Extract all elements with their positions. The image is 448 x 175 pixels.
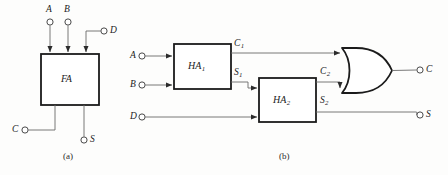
label-c2-name: C <box>320 66 326 76</box>
label-b-input-a: A <box>130 51 136 61</box>
wire-s1 <box>231 82 257 88</box>
label-ha2-name: HA <box>273 94 286 105</box>
label-c1-name: C <box>234 38 240 48</box>
circuit-diagram-canvas <box>0 0 448 175</box>
label-b-input-d: D <box>130 112 137 122</box>
terminal-a-s[interactable] <box>81 137 87 143</box>
label-a-input-b: B <box>64 5 70 15</box>
label-ha1-name: HA <box>188 60 201 71</box>
or-gate-body <box>342 48 392 93</box>
label-b-output-s: S <box>426 110 431 120</box>
label-signal-s1: S1 <box>234 68 242 78</box>
wire-c-output <box>392 70 417 71</box>
label-b-output-c: C <box>426 65 432 75</box>
wire-c2 <box>316 82 340 88</box>
full-adder-figure: A B D C S FA (a) A B D HA1 HA2 C1 S1 C2 … <box>0 0 448 175</box>
wire-a-d <box>86 31 101 52</box>
label-c1-subscript: 1 <box>241 42 244 49</box>
label-c2-subscript: 2 <box>327 70 330 77</box>
label-signal-c1: C1 <box>234 39 244 49</box>
label-signal-c2: C2 <box>320 67 330 77</box>
terminal-b-a[interactable] <box>139 53 145 59</box>
label-s2-subscript: 2 <box>325 99 328 106</box>
terminal-b-b[interactable] <box>139 82 145 88</box>
terminal-a-b[interactable] <box>65 19 71 25</box>
label-a-input-d: D <box>110 26 117 36</box>
label-ha2-block: HA2 <box>273 95 290 105</box>
label-fa-block: FA <box>61 74 72 84</box>
terminal-a-c[interactable] <box>22 127 28 133</box>
terminal-b-s-out[interactable] <box>417 112 423 118</box>
terminal-b-c-out[interactable] <box>417 67 423 73</box>
terminal-a-d[interactable] <box>101 28 107 34</box>
label-ha2-subscript: 2 <box>287 99 290 106</box>
caption-a: (a) <box>63 152 73 161</box>
caption-b: (b) <box>279 152 290 161</box>
label-ha1-subscript: 1 <box>202 65 205 72</box>
label-a-output-s: S <box>90 135 95 145</box>
wire-a-c <box>28 105 55 130</box>
label-a-input-a: A <box>46 5 52 15</box>
terminal-b-d[interactable] <box>139 114 145 120</box>
diagram-b-group <box>139 44 423 122</box>
label-ha1-block: HA1 <box>188 61 205 71</box>
label-a-input-c: C <box>12 125 18 135</box>
label-s1-subscript: 1 <box>239 71 242 78</box>
label-signal-s2: S2 <box>320 96 328 106</box>
label-b-input-b: B <box>130 80 136 90</box>
terminal-a-a[interactable] <box>47 19 53 25</box>
